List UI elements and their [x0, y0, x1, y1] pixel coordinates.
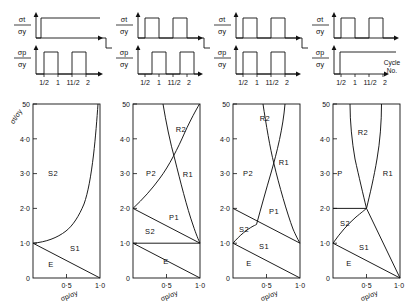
plot-panel-4: 50 4·0 3·0 2·0 1·0 0 0·5 1·0 σp/σy R2 R1… — [320, 101, 404, 303]
waveform-block-3: σt σy σp σy 1/2 1 11/2 2 — [200, 12, 301, 86]
waveform-block-2: σt σy σp σy 1/2 1 11/2 2 — [100, 12, 203, 86]
waveform-2-sigma-p-label: σp σy — [116, 48, 133, 69]
p2-ytick-1: 1·0 — [120, 240, 130, 247]
plot-panel-3: 50 4·0 3·0 2·0 1·0 0 0·5 1·0 σp/σy R2 R1… — [220, 101, 305, 303]
wf4-tick-2: 11/2 — [363, 79, 376, 86]
wf4-tick-3: 2 — [383, 79, 387, 86]
wf1-tick-1: 1 — [56, 79, 60, 86]
p3-region-S2: S2 — [239, 225, 249, 234]
p2-region-R1: R1 — [183, 170, 194, 179]
p4-r1-boundary — [367, 104, 382, 208]
wf2-st-num: σt — [121, 15, 127, 24]
p4-region-R2: R2 — [358, 128, 369, 137]
p2-region-S2: S2 — [145, 227, 155, 236]
wf3-tick-1: 1 — [255, 79, 259, 86]
wf1-sp-den: σy — [18, 60, 26, 69]
p3-ytick-2: 2·0 — [220, 205, 230, 212]
wf4-tick-1: 1 — [353, 79, 357, 86]
p2-region-R2: R2 — [176, 125, 187, 134]
waveform-block-4: σt σy σp σy 1/2 1 11/2 2 Cycle No. — [298, 12, 401, 86]
p2-ytick-0: 0 — [126, 275, 130, 282]
wf1-st-num: σt — [19, 15, 25, 24]
p4-xtick-10: 1·0 — [394, 282, 404, 289]
wf2-sp-num: σp — [120, 48, 128, 57]
p3-xtick-05: 0·5 — [261, 282, 271, 289]
p3-xtick-10: 1·0 — [295, 282, 305, 289]
p2-x-axis-title: σp/σy — [159, 289, 179, 303]
wf2-sp-den: σy — [120, 60, 128, 69]
wf1-tick-0: 1/2 — [39, 79, 49, 86]
p3-ytick-0: 0 — [226, 275, 230, 282]
wf3-tick-0: 1/2 — [238, 79, 248, 86]
p1-region-S2: S2 — [48, 169, 58, 178]
p1-xtick-10: 1·0 — [95, 282, 105, 289]
wf2-st-den: σy — [120, 27, 128, 36]
p1-x-axis-title: σp/σy — [59, 289, 79, 303]
p3-ytick-5: 50 — [222, 101, 230, 108]
p4-ytick-1: 1·0 — [320, 240, 330, 247]
wf3-st-den: σy — [218, 27, 226, 36]
p4-region-R1: R1 — [383, 169, 394, 178]
p2-ytick-3: 3·0 — [120, 170, 130, 177]
p2-xtick-05: 0·5 — [161, 282, 171, 289]
waveform-1-sigma-p-label: σp σy — [14, 48, 31, 69]
wf3-st-num: σt — [219, 15, 225, 24]
p3-region-P2: P2 — [243, 169, 253, 178]
p1-y-axis-title: σt/σy — [8, 108, 24, 126]
wf4-st-den: σy — [316, 27, 324, 36]
p3-ytick-4: 4·0 — [220, 136, 230, 143]
cycle-label-line1: Cycle — [384, 59, 401, 67]
wf1-sp-num: σp — [18, 48, 26, 57]
wf3-tick-3: 2 — [285, 79, 289, 86]
wf2-tick-1: 1 — [157, 79, 161, 86]
cycle-label-line2: No. — [387, 67, 397, 74]
p4-s1-right-line — [367, 208, 401, 278]
waveform-1-sigma-t-label: σt σy — [14, 15, 31, 36]
p4-ytick-2: 2·0 — [320, 205, 330, 212]
p1-ytick-2: 2·0 — [20, 205, 30, 212]
p3-x-axis-title: σp/σy — [259, 289, 279, 303]
waveform-2-sigma-t-label: σt σy — [116, 15, 133, 36]
p1-elastic-limit-line — [33, 243, 100, 278]
wf4-st-num: σt — [317, 15, 323, 24]
wf2-tick-3: 2 — [187, 79, 191, 86]
p3-r1-boundary — [263, 104, 300, 243]
wf1-tick-2: 11/2 — [66, 79, 79, 86]
p3-region-E: E — [246, 259, 252, 268]
p1-ytick-1: 1·0 — [20, 240, 30, 247]
p4-ytick-4: 4·0 — [320, 136, 330, 143]
p4-ytick-0: 0 — [326, 275, 330, 282]
wf2-tick-2: 11/2 — [167, 79, 180, 86]
wf3-sp-den: σy — [218, 60, 226, 69]
p3-ytick-1: 1·0 — [220, 240, 230, 247]
p4-x-axis-title: σp/σy — [359, 289, 379, 303]
p1-ytick-5: 50 — [22, 101, 30, 108]
wf3-tick-2: 11/2 — [265, 79, 278, 86]
p2-s2-upper-line — [133, 208, 200, 243]
p4-ytick-5: 50 — [322, 101, 330, 108]
p1-ytick-3: 3·0 — [20, 170, 30, 177]
p1-xtick-05: 0·5 — [61, 282, 71, 289]
p4-region-S1: S1 — [359, 243, 369, 252]
p4-region-P: P — [337, 169, 343, 178]
waveform-block-1: σt σy σp σy 1/2 1 11/2 2 — [14, 12, 103, 86]
p2-region-P2: P2 — [146, 169, 156, 178]
figure-root: σt σy σp σy 1/2 1 11/2 2 σt — [0, 0, 414, 306]
p3-region-R2: R2 — [260, 114, 271, 123]
p4-xtick-05: 0·5 — [361, 282, 371, 289]
wf4-tick-0: 1/2 — [336, 79, 346, 86]
p4-ytick-3: 3·0 — [320, 170, 330, 177]
p3-region-R1: R1 — [279, 158, 290, 167]
wf1-st-den: σy — [18, 27, 26, 36]
wf2-tick-0: 1/2 — [140, 79, 150, 86]
p2-ytick-2: 2·0 — [120, 205, 130, 212]
waveform-3-sigma-t-label: σt σy — [214, 15, 231, 36]
wf4-sp-den: σy — [316, 60, 324, 69]
figure-svg: σt σy σp σy 1/2 1 11/2 2 σt — [0, 0, 414, 306]
p1-region-S1: S1 — [70, 244, 80, 253]
cycle-number-axis-label: Cycle No. — [384, 59, 401, 74]
p2-ytick-5: 50 — [122, 101, 130, 108]
p3-ytick-3: 3·0 — [220, 170, 230, 177]
p1-shakedown-curve — [33, 104, 98, 243]
waveform-4-sigma-p-label: σp σy — [312, 48, 329, 69]
